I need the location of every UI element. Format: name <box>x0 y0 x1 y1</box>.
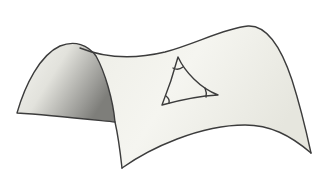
saddle-surface-figure <box>0 0 321 186</box>
saddle-illustration <box>0 0 321 186</box>
